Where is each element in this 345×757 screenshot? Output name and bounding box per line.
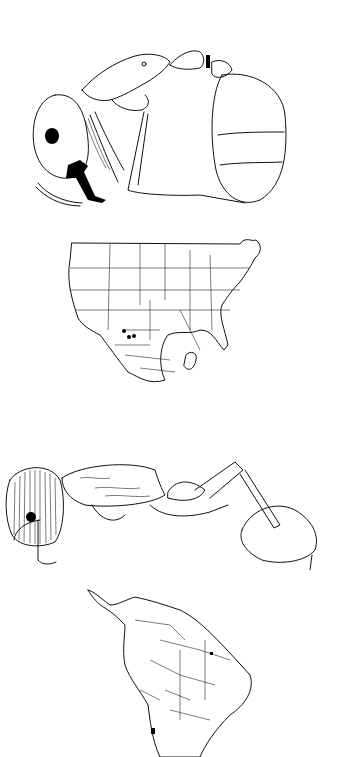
ant-illustration-bottom: [0, 430, 345, 570]
ant-drawing-icon: [0, 0, 345, 215]
map-icon: [80, 585, 280, 757]
ant-drawing-icon: [0, 430, 345, 570]
north-america-map: [60, 235, 290, 385]
map-icon: [60, 235, 290, 385]
ant-illustration-top: [0, 0, 345, 215]
south-america-map: [80, 585, 280, 757]
